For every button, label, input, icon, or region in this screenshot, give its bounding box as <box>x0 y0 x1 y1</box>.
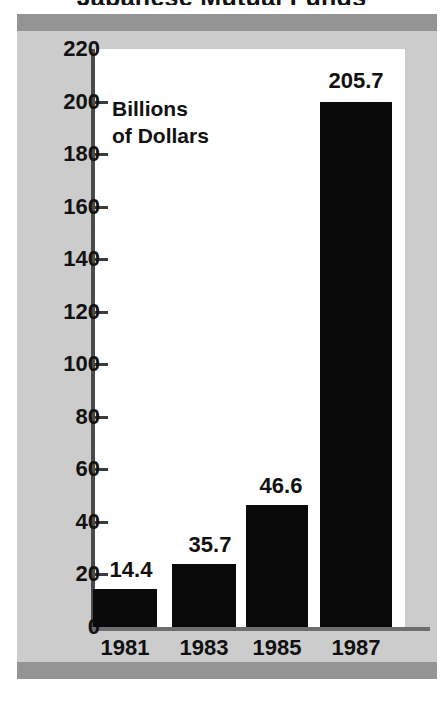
y-axis-tick-label: 40 <box>38 511 100 533</box>
chart-figure: Japanese Mutual Funds 020406080100120140… <box>0 0 443 701</box>
y-axis-tick-label: 80 <box>38 406 100 428</box>
x-axis-spine <box>91 627 430 631</box>
y-axis-label-line2: of Dollars <box>112 123 209 150</box>
bottom-band <box>17 662 437 679</box>
bar-value-label: 205.7 <box>314 70 398 92</box>
x-axis-category-label: 1983 <box>166 637 242 659</box>
x-axis-category-label: 1981 <box>87 637 163 659</box>
y-axis-tick-label: 180 <box>38 143 100 165</box>
y-axis-tick-label: 160 <box>38 196 100 218</box>
y-axis-tick-label: 60 <box>38 458 100 480</box>
y-axis-tick-label: 100 <box>38 353 100 375</box>
y-axis-tick-label: 140 <box>38 248 100 270</box>
x-axis-category-label: 1987 <box>314 637 398 659</box>
y-axis-tick-label: 20 <box>38 563 100 585</box>
bar <box>93 589 157 627</box>
bar <box>246 505 308 627</box>
y-axis-label: Billions of Dollars <box>112 96 209 150</box>
y-axis-tick-label: 0 <box>38 616 100 638</box>
top-band <box>17 14 437 31</box>
bar-value-label: 46.6 <box>244 475 318 497</box>
bar <box>172 564 236 627</box>
y-axis-label-line1: Billions <box>112 96 209 123</box>
x-axis-category-label: 1985 <box>240 637 314 659</box>
bar <box>320 102 392 627</box>
bar-value-label: 35.7 <box>172 534 248 556</box>
y-axis-tick-label: 120 <box>38 301 100 323</box>
chart-title: Japanese Mutual Funds <box>0 0 443 5</box>
y-axis-tick-label: 220 <box>38 38 100 60</box>
y-axis-tick-label: 200 <box>38 91 100 113</box>
bar-value-label: 14.4 <box>93 559 169 581</box>
y-axis-spine <box>91 49 95 629</box>
